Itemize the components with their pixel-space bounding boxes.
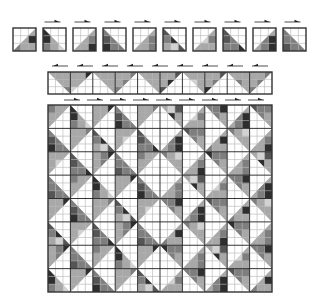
arrow-right-icon <box>285 20 301 22</box>
arrow-left-icon <box>252 64 268 66</box>
tile-3 <box>73 28 96 51</box>
arrow-left-icon <box>102 64 118 66</box>
arrow-right-icon <box>45 20 61 22</box>
arrow-right-icon <box>225 20 241 22</box>
arrow-right-icon <box>195 20 211 22</box>
tile-8 <box>223 28 246 51</box>
tile-1 <box>13 28 36 51</box>
arrow-right-icon <box>87 98 103 100</box>
tile-5 <box>133 28 156 51</box>
tile-6 <box>163 28 186 51</box>
tile-row-arrows <box>45 20 301 22</box>
strip <box>48 72 272 94</box>
tile-2 <box>43 28 66 51</box>
arrow-right-icon <box>105 20 121 22</box>
tile-row <box>13 28 306 51</box>
arrow-right-icon <box>135 20 151 22</box>
arrow-left-icon <box>202 64 218 66</box>
arrow-left-icon <box>52 64 68 66</box>
arrow-right-icon <box>110 98 126 100</box>
tile-9 <box>253 28 276 51</box>
tile-7 <box>193 28 216 51</box>
arrow-left-icon <box>152 64 168 66</box>
diagram-canvas <box>0 0 315 303</box>
arrow-right-icon <box>64 98 80 100</box>
arrow-right-icon <box>202 98 218 100</box>
quilt-arrows <box>64 98 264 100</box>
tile-4 <box>103 28 126 51</box>
arrow-left-icon <box>77 64 93 66</box>
arrow-left-icon <box>127 64 143 66</box>
arrow-left-icon <box>227 64 243 66</box>
arrow-left-icon <box>177 64 193 66</box>
arrow-right-icon <box>165 20 181 22</box>
quilt <box>48 105 272 292</box>
arrow-right-icon <box>156 98 172 100</box>
tile-10 <box>283 28 306 51</box>
strip-arrows <box>52 64 268 66</box>
arrow-right-icon <box>255 20 271 22</box>
arrow-right-icon <box>225 98 241 100</box>
arrow-right-icon <box>179 98 195 100</box>
quilt-diagram <box>0 0 315 303</box>
arrow-right-icon <box>75 20 91 22</box>
arrow-right-icon <box>248 98 264 100</box>
arrow-right-icon <box>133 98 149 100</box>
